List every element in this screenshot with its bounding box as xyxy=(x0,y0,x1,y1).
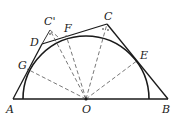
label-a: A xyxy=(5,103,14,116)
label-c: C xyxy=(104,10,113,23)
segment-cb xyxy=(107,24,168,99)
label-e: E xyxy=(139,49,148,62)
geometry-diagram: A O B C C' D F E G xyxy=(0,0,182,126)
dashed-oc xyxy=(86,24,107,99)
center-point-o xyxy=(84,97,87,100)
angle-mark-c-left xyxy=(102,28,104,30)
label-c-prime: C' xyxy=(44,15,55,28)
dashed-og xyxy=(27,69,86,99)
label-b: B xyxy=(161,103,170,116)
label-o: O xyxy=(82,103,91,116)
label-d: D xyxy=(29,36,39,49)
angle-mark-c-right xyxy=(107,29,109,31)
label-g: G xyxy=(18,59,27,72)
label-f: F xyxy=(63,22,72,35)
dashed-c-prime-f xyxy=(50,30,58,37)
dashed-oe xyxy=(86,60,138,99)
angle-mark-c-prime xyxy=(49,33,51,35)
